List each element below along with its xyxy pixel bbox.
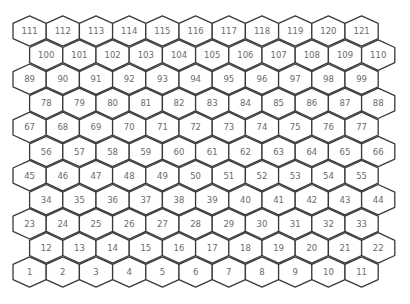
hex-cell-label: 96 bbox=[257, 74, 268, 84]
hex-cell-label: 81 bbox=[140, 98, 151, 108]
hex-cell-label: 50 bbox=[190, 171, 201, 181]
hex-cell-label: 102 bbox=[104, 50, 120, 60]
hex-cell-label: 92 bbox=[124, 74, 135, 84]
hex-cell-label: 35 bbox=[74, 195, 85, 205]
hex-cell-label: 5 bbox=[160, 267, 165, 277]
hex-cell-label: 105 bbox=[204, 50, 220, 60]
hex-cell-label: 100 bbox=[38, 50, 54, 60]
hex-cell-label: 6 bbox=[193, 267, 198, 277]
hex-cell-label: 82 bbox=[174, 98, 185, 108]
hex-cell-label: 60 bbox=[174, 147, 185, 157]
hex-cell-label: 15 bbox=[140, 243, 151, 253]
hex-cell-label: 25 bbox=[91, 219, 102, 229]
hex-cell-label: 49 bbox=[157, 171, 168, 181]
hex-cell-label: 99 bbox=[356, 74, 367, 84]
hex-cell-label: 2 bbox=[60, 267, 65, 277]
hex-cell-label: 106 bbox=[237, 50, 253, 60]
hex-cell-label: 27 bbox=[157, 219, 168, 229]
hex-cell-label: 112 bbox=[55, 26, 71, 36]
hex-cell-label: 36 bbox=[107, 195, 118, 205]
hex-cell-label: 85 bbox=[273, 98, 284, 108]
hex-cell-label: 87 bbox=[340, 98, 351, 108]
hex-cell-label: 110 bbox=[370, 50, 386, 60]
hex-cell-label: 117 bbox=[221, 26, 237, 36]
hex-cell-label: 58 bbox=[107, 147, 118, 157]
hex-cell-label: 51 bbox=[223, 171, 234, 181]
hex-cell-label: 44 bbox=[373, 195, 384, 205]
hex-cell-label: 45 bbox=[24, 171, 35, 181]
hex-cell-label: 18 bbox=[240, 243, 251, 253]
hex-cell-label: 90 bbox=[57, 74, 68, 84]
hex-cell-label: 19 bbox=[273, 243, 284, 253]
hex-cell-label: 79 bbox=[74, 98, 85, 108]
hex-cell-label: 116 bbox=[187, 26, 203, 36]
hex-cell-label: 95 bbox=[223, 74, 234, 84]
hex-cell-label: 63 bbox=[273, 147, 284, 157]
hex-cell-label: 104 bbox=[171, 50, 187, 60]
hex-cell-label: 37 bbox=[140, 195, 151, 205]
hex-cell-label: 114 bbox=[121, 26, 137, 36]
hex-cell-label: 77 bbox=[356, 122, 367, 132]
hex-cell-label: 28 bbox=[190, 219, 201, 229]
hex-cell-label: 93 bbox=[157, 74, 168, 84]
hex-cell-label: 24 bbox=[57, 219, 68, 229]
hex-cell-label: 41 bbox=[273, 195, 284, 205]
hex-cell-label: 113 bbox=[88, 26, 104, 36]
hex-grid-board: 1111121131141151161171181191201211001011… bbox=[0, 0, 410, 304]
hex-cell-label: 20 bbox=[306, 243, 317, 253]
hex-cell-label: 14 bbox=[107, 243, 118, 253]
hex-cell-label: 94 bbox=[190, 74, 201, 84]
hex-cell-label: 67 bbox=[24, 122, 35, 132]
hex-cell-label: 9 bbox=[292, 267, 297, 277]
hex-cell-label: 108 bbox=[304, 50, 320, 60]
hex-cell-label: 70 bbox=[124, 122, 135, 132]
hex-cell-label: 11 bbox=[356, 267, 367, 277]
hex-cell-label: 29 bbox=[223, 219, 234, 229]
hex-cell-label: 103 bbox=[138, 50, 154, 60]
hex-cell-label: 4 bbox=[126, 267, 131, 277]
hex-cell-label: 115 bbox=[154, 26, 170, 36]
hex-cell-label: 53 bbox=[290, 171, 301, 181]
hex-cell-label: 30 bbox=[257, 219, 268, 229]
hex-cell-label: 3 bbox=[93, 267, 98, 277]
hex-cell-label: 54 bbox=[323, 171, 334, 181]
hex-cell-label: 78 bbox=[41, 98, 52, 108]
hex-cell-label: 83 bbox=[207, 98, 218, 108]
hex-cell-label: 65 bbox=[340, 147, 351, 157]
hex-cell-label: 119 bbox=[287, 26, 303, 36]
hex-cell-label: 34 bbox=[41, 195, 52, 205]
hex-cell-label: 73 bbox=[223, 122, 234, 132]
hex-cell-label: 111 bbox=[21, 26, 37, 36]
hex-cell-label: 97 bbox=[290, 74, 301, 84]
hex-cell-label: 109 bbox=[337, 50, 353, 60]
hex-cell-label: 120 bbox=[320, 26, 336, 36]
hex-cell-label: 72 bbox=[190, 122, 201, 132]
hex-cell-label: 80 bbox=[107, 98, 118, 108]
hex-cell-label: 66 bbox=[373, 147, 384, 157]
hex-cell-label: 47 bbox=[91, 171, 102, 181]
hex-cell-label: 7 bbox=[226, 267, 231, 277]
hex-cell-label: 64 bbox=[306, 147, 317, 157]
hex-cell-label: 23 bbox=[24, 219, 35, 229]
hex-cell-label: 10 bbox=[323, 267, 334, 277]
hex-cell-label: 76 bbox=[323, 122, 334, 132]
hex-cell-label: 56 bbox=[41, 147, 52, 157]
hex-cell-label: 21 bbox=[340, 243, 351, 253]
hex-cell-label: 84 bbox=[240, 98, 251, 108]
hex-cell-label: 74 bbox=[257, 122, 268, 132]
hex-cell-label: 68 bbox=[57, 122, 68, 132]
hex-cell-label: 55 bbox=[356, 171, 367, 181]
hex-cell-label: 62 bbox=[240, 147, 251, 157]
hex-cell-label: 91 bbox=[91, 74, 102, 84]
hex-cell-label: 22 bbox=[373, 243, 384, 253]
hex-cell-label: 13 bbox=[74, 243, 85, 253]
hex-cell-label: 26 bbox=[124, 219, 135, 229]
hex-cell-label: 88 bbox=[373, 98, 384, 108]
hex-cell-label: 107 bbox=[270, 50, 286, 60]
hex-cell-label: 17 bbox=[207, 243, 218, 253]
hex-cell-label: 42 bbox=[306, 195, 317, 205]
hex-cells: 1111121131141151161171181191201211001011… bbox=[13, 16, 395, 287]
hex-cell-label: 8 bbox=[259, 267, 264, 277]
hex-cell-label: 38 bbox=[174, 195, 185, 205]
hex-cell-label: 39 bbox=[207, 195, 218, 205]
